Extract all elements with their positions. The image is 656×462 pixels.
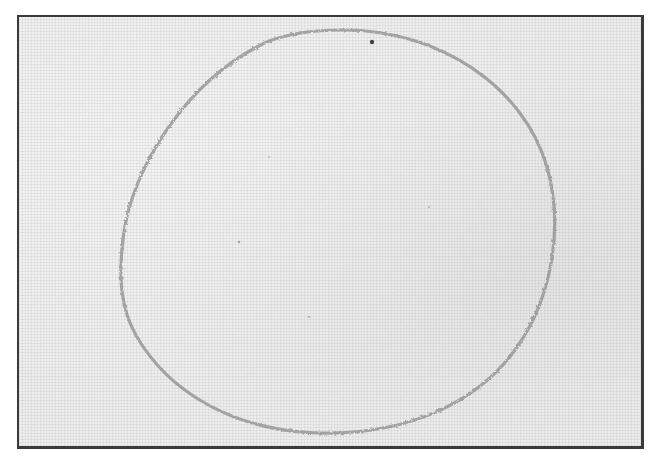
pencil-speck (370, 40, 374, 44)
fabric-speck (308, 316, 310, 318)
fabric-speck (428, 206, 430, 208)
fabric-texture (19, 17, 641, 446)
fabric-speck (268, 156, 270, 158)
photo-canvas (19, 17, 641, 446)
fabric-speck (238, 241, 240, 243)
photo-frame (17, 15, 644, 449)
